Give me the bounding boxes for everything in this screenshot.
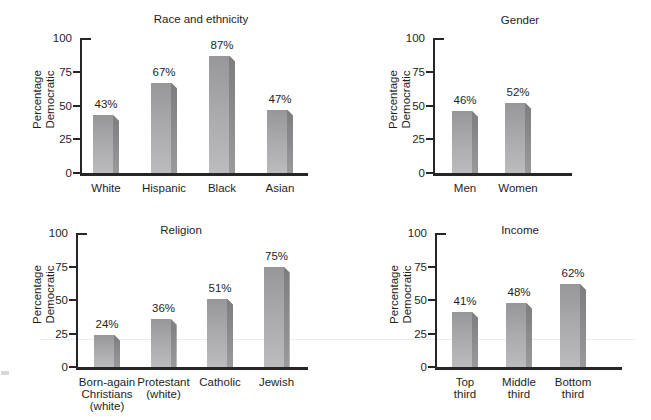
y-tick-label: 75: [383, 65, 425, 79]
bar-value-label: 75%: [265, 250, 288, 262]
x-category-label-line: third: [502, 388, 536, 400]
bar-value-label: 43%: [94, 98, 117, 110]
bar-side-face: [472, 312, 478, 368]
y-tick-label: 75: [30, 65, 72, 79]
x-category-label: Jewish: [259, 376, 294, 388]
x-category-label-line: Asian: [266, 182, 295, 194]
x-category-label: Hispanic: [142, 182, 186, 194]
x-axis: [435, 367, 622, 370]
x-category-label-line: third: [454, 388, 476, 400]
x-category-label: Middlethird: [502, 376, 536, 400]
x-category-label: White: [91, 182, 120, 194]
y-tick-label: 25: [383, 132, 425, 146]
x-category-label-line: (white): [79, 400, 135, 412]
y-tick-mark: [69, 266, 76, 268]
bar-side-face: [287, 110, 293, 174]
bar-side-face: [113, 115, 119, 174]
x-category-label: Born-againChristians(white): [79, 376, 135, 412]
bar-side-face: [284, 267, 290, 369]
y-tick-label: 0: [383, 166, 425, 180]
bar-side-face: [526, 303, 532, 368]
y-tick-mark: [426, 105, 433, 107]
bar-top-third: [452, 312, 478, 368]
x-category-label-line: Born-again: [79, 376, 135, 388]
y-axis: [433, 38, 435, 175]
bar-value-label: 46%: [453, 94, 476, 106]
y-tick-label: 100: [383, 31, 425, 45]
bar-value-label: 41%: [453, 295, 476, 307]
y-tick-mark: [426, 71, 433, 73]
y-tick-label: 25: [385, 327, 427, 341]
chart-title: Income: [501, 224, 539, 236]
y-axis: [80, 38, 82, 175]
bar-side-face: [580, 284, 586, 368]
y-tick-mark: [428, 333, 435, 335]
x-category-label-line: third: [555, 388, 591, 400]
bar-value-label: 51%: [208, 282, 231, 294]
y-tick-label: 50: [30, 99, 72, 113]
x-category-label-line: Middle: [502, 376, 536, 388]
x-category-label: Men: [454, 182, 476, 194]
x-category-label-line: Hispanic: [142, 182, 186, 194]
y-tick-label: 50: [383, 99, 425, 113]
x-category-label-line: Protestant: [137, 376, 189, 388]
bar-middle-third: [506, 303, 532, 368]
bar-value-label: 62%: [561, 267, 584, 279]
y-tick-label: 100: [385, 226, 427, 240]
x-category-label-line: Jewish: [259, 376, 294, 388]
bar-born-again-christians-white: [94, 335, 120, 368]
y-tick-label: 0: [385, 360, 427, 374]
y-tick-label: 100: [30, 31, 72, 45]
bar-side-face: [525, 103, 531, 174]
x-category-label-line: Women: [498, 182, 537, 194]
bar-bottom-third: [560, 284, 586, 368]
bar-value-label: 48%: [507, 286, 530, 298]
bar-side-face: [227, 299, 233, 368]
bar-men: [452, 111, 478, 174]
y-tick-mark: [73, 172, 80, 174]
bar-white: [93, 115, 119, 174]
x-axis: [76, 367, 308, 370]
x-category-label-line: Men: [454, 182, 476, 194]
y-tick-mark: [82, 38, 91, 40]
y-tick-mark: [437, 233, 446, 235]
y-tick-mark: [428, 299, 435, 301]
x-category-label-line: Bottom: [555, 376, 591, 388]
y-tick-label: 50: [26, 293, 68, 307]
x-category-label: Asian: [266, 182, 295, 194]
y-tick-mark: [428, 266, 435, 268]
x-category-label: Catholic: [199, 376, 241, 388]
y-tick-mark: [428, 366, 435, 368]
x-category-label: Protestant(white): [137, 376, 189, 400]
y-tick-label: 0: [26, 360, 68, 374]
bar-side-face: [171, 83, 177, 174]
y-tick-mark: [73, 105, 80, 107]
y-tick-mark: [426, 138, 433, 140]
y-axis: [435, 233, 437, 369]
x-category-label: Bottomthird: [555, 376, 591, 400]
y-tick-mark: [73, 71, 80, 73]
y-tick-label: 75: [385, 260, 427, 274]
bar-value-label: 36%: [152, 302, 175, 314]
x-category-label-line: (white): [137, 388, 189, 400]
bar-value-label: 87%: [210, 39, 233, 51]
bar-side-face: [472, 111, 478, 174]
bar-side-face: [171, 319, 177, 368]
y-tick-mark: [435, 38, 444, 40]
y-tick-label: 100: [26, 226, 68, 240]
y-tick-label: 75: [26, 260, 68, 274]
y-tick-label: 25: [26, 327, 68, 341]
x-category-label-line: White: [91, 182, 120, 194]
bar-side-face: [229, 56, 235, 174]
bar-asian: [267, 110, 293, 174]
x-category-label-line: Catholic: [199, 376, 241, 388]
y-tick-mark: [69, 299, 76, 301]
y-tick-mark: [426, 172, 433, 174]
bar-value-label: 24%: [95, 318, 118, 330]
y-tick-mark: [69, 366, 76, 368]
bar-hispanic: [151, 83, 177, 174]
x-category-label: Topthird: [454, 376, 476, 400]
bar-catholic: [207, 299, 233, 368]
figure-canvas: Race and ethnicity Percentage Democratic…: [0, 0, 651, 420]
x-category-label: Black: [208, 182, 236, 194]
